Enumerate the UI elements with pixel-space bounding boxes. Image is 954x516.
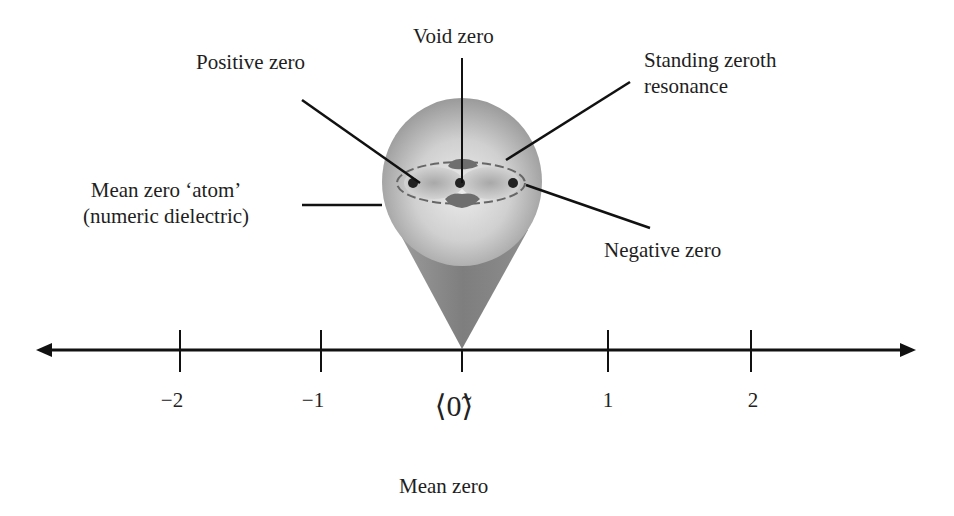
mean-zero-label: Mean zero [399, 474, 488, 498]
tick-label-1: 1 [603, 388, 614, 413]
tick-label-minus-2: −2 [161, 388, 183, 413]
negative-zero-label: Negative zero [604, 238, 721, 262]
tick-label-2: 2 [748, 388, 759, 413]
void-zero-label: Void zero [413, 24, 494, 48]
diagram-canvas [0, 0, 954, 516]
tick-label-minus-1: −1 [302, 388, 324, 413]
left-arrow-icon [36, 343, 52, 357]
atom-label-line1: Mean zero ‘atom’ [56, 178, 276, 202]
positive-zero-label: Positive zero [196, 50, 305, 74]
standing-resonance-leader [506, 82, 630, 160]
mean-zero-symbol: ⟨0̃⟩ [435, 388, 473, 423]
standing-resonance-label-line1: Standing zeroth [644, 48, 776, 72]
void-zero-dot [455, 178, 465, 188]
right-arrow-icon [900, 343, 916, 357]
negative-zero-dot [508, 178, 518, 188]
standing-resonance-label-line2: resonance [644, 74, 728, 98]
negative-zero-leader [526, 185, 650, 228]
atom-label-line2: (numeric dielectric) [46, 204, 286, 228]
